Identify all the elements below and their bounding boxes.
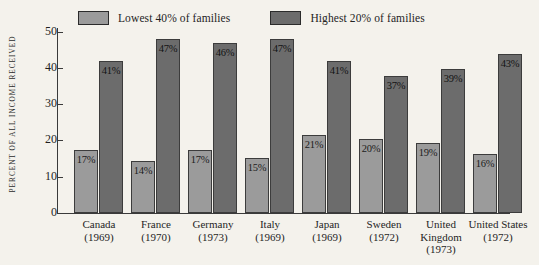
bar-low-germany[interactable]: 17% [188, 150, 212, 213]
bar-value-high-united-kingdom: 39% [442, 73, 464, 84]
bar-low-france[interactable]: 14% [131, 161, 155, 213]
bar-high-france[interactable]: 47% [156, 39, 180, 213]
bar-value-high-italy: 47% [271, 43, 293, 54]
bar-value-high-canada: 41% [100, 65, 122, 76]
bar-low-italy[interactable]: 15% [245, 158, 269, 214]
y-tick-label-10: 10 [19, 169, 57, 184]
bar-high-canada[interactable]: 41% [99, 61, 123, 213]
bar-high-japan[interactable]: 41% [327, 61, 351, 213]
bar-high-germany[interactable]: 46% [213, 43, 237, 213]
bar-value-high-france: 47% [157, 43, 179, 54]
bar-value-low-united-states: 16% [474, 158, 496, 169]
bar-group-germany: 17% 46% [188, 28, 237, 213]
income-distribution-bar-chart: Lowest 40% of families Highest 20% of fa… [0, 0, 539, 265]
y-tick-label-50: 50 [19, 24, 57, 39]
y-tick-label-20: 20 [19, 132, 57, 147]
bar-high-italy[interactable]: 47% [270, 39, 294, 213]
y-tick-label-0: 0 [19, 205, 57, 220]
bar-value-low-sweden: 20% [360, 143, 382, 154]
chart-legend: Lowest 40% of families Highest 20% of fa… [78, 8, 425, 28]
bar-low-united-states[interactable]: 16% [473, 154, 497, 213]
bar-value-low-italy: 15% [246, 162, 268, 173]
x-axis-line [57, 213, 510, 214]
category-year-united-states: (1972) [462, 231, 534, 244]
bar-low-sweden[interactable]: 20% [359, 139, 383, 213]
bar-high-sweden[interactable]: 37% [384, 76, 408, 213]
y-tick-label-30: 30 [19, 96, 57, 111]
bar-value-high-sweden: 37% [385, 80, 407, 91]
bar-group-canada: 17% 41% [74, 28, 123, 213]
legend-item-highest-20: Highest 20% of families [270, 11, 424, 25]
legend-label-highest-20: Highest 20% of families [310, 12, 424, 24]
y-tick-0 [57, 213, 63, 214]
bar-high-united-kingdom[interactable]: 39% [441, 69, 465, 213]
legend-label-lowest-40: Lowest 40% of families [118, 12, 230, 24]
y-axis-title: PERCENT OF ALL INCOME RECEIVED [9, 29, 17, 199]
bar-group-sweden: 20% 37% [359, 28, 408, 213]
bar-value-low-canada: 17% [75, 154, 97, 165]
legend-swatch-highest-20 [270, 11, 301, 25]
plot-area: 17% 41% 14% 47% 17% 46% 15% 47% 21% 41% … [58, 28, 510, 213]
legend-swatch-lowest-40 [78, 11, 109, 25]
bar-group-france: 14% 47% [131, 28, 180, 213]
bar-value-low-france: 14% [132, 165, 154, 176]
y-tick-label-40: 40 [19, 60, 57, 75]
category-label-united-states: United States (1972) [462, 218, 534, 243]
bar-value-high-germany: 46% [214, 47, 236, 58]
bar-low-united-kingdom[interactable]: 19% [416, 143, 440, 213]
legend-item-lowest-40: Lowest 40% of families [78, 11, 230, 25]
bar-high-united-states[interactable]: 43% [498, 54, 522, 213]
bar-value-low-japan: 21% [303, 139, 325, 150]
category-name-united-states: United States [462, 218, 534, 231]
bar-value-low-germany: 17% [189, 154, 211, 165]
bar-group-united-states: 16% 43% [473, 28, 522, 213]
bar-group-italy: 15% 47% [245, 28, 294, 213]
bar-group-japan: 21% 41% [302, 28, 351, 213]
bar-low-canada[interactable]: 17% [74, 150, 98, 213]
bar-value-low-united-kingdom: 19% [417, 147, 439, 158]
bar-value-high-united-states: 43% [499, 58, 521, 69]
bar-value-high-japan: 41% [328, 65, 350, 76]
bar-low-japan[interactable]: 21% [302, 135, 326, 213]
category-year-united-kingdom: (1973) [405, 243, 477, 256]
bar-group-united-kingdom: 19% 39% [416, 28, 465, 213]
